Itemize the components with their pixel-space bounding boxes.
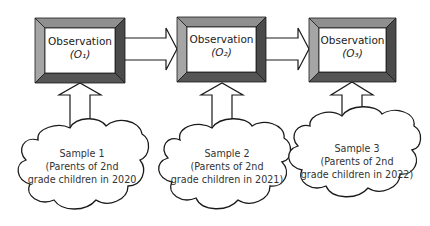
observation-1-symbol: (O₁) [45,48,115,61]
observation-2-title: Observation [187,33,256,46]
observation-1-label: Observation (O₁) [45,35,115,61]
arrow-right-1 [124,28,177,70]
sample-2-title: Sample 2 [166,147,288,160]
observation-3-label: Observation (O₃) [319,34,386,60]
observation-3-title: Observation [319,34,386,47]
sample-1-line2: (Parents of 2nd [22,160,142,173]
sample-2-line3: grade children in 2021) [166,173,288,186]
observation-1-title: Observation [45,35,115,48]
sample-2-line2: (Parents of 2nd [166,160,288,173]
arrow-right-2 [265,28,309,70]
observation-2-symbol: (O₂) [187,46,256,59]
sample-1-title: Sample 1 [22,147,142,160]
sample-3-line2: (Parents of 2nd [295,155,419,168]
observation-2-label: Observation (O₂) [187,33,256,59]
sample-2-label: Sample 2 (Parents of 2nd grade children … [166,147,288,186]
sample-3-line3: grade children in 2022) [295,168,419,181]
observation-3-symbol: (O₃) [319,47,386,60]
sample-3-title: Sample 3 [295,142,419,155]
sample-3-label: Sample 3 (Parents of 2nd grade children … [295,142,419,181]
sample-1-label: Sample 1 (Parents of 2nd grade children … [22,147,142,186]
sample-1-line3: grade children in 2020 [22,173,142,186]
